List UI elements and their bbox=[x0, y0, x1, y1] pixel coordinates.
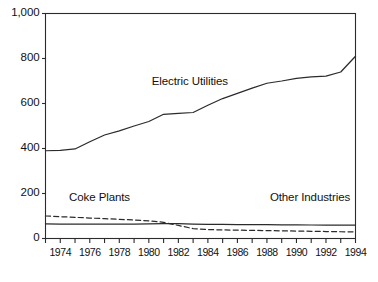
series-annotation-electric-utilities: Electric Utilities bbox=[152, 75, 228, 87]
y-axis-tick-label: 600 bbox=[21, 96, 40, 108]
y-axis-tick-label: 1,000 bbox=[11, 6, 39, 18]
series-line-electric-utilities bbox=[46, 56, 356, 151]
series-annotation-coke-plants: Coke Plants bbox=[69, 191, 130, 203]
y-axis-tick-label: 400 bbox=[21, 141, 40, 153]
line-chart bbox=[0, 0, 378, 282]
series-annotation-other-industries: Other Industries bbox=[270, 191, 350, 203]
x-axis-tick-label: 1994 bbox=[336, 246, 376, 258]
chart-container: 02004006008001,0001974197619781980198219… bbox=[0, 0, 378, 282]
plot-frame bbox=[46, 14, 356, 239]
series-line-other-industries bbox=[46, 224, 356, 225]
y-axis-tick-label: 800 bbox=[21, 51, 40, 63]
x-axis-ticks bbox=[46, 239, 356, 244]
y-axis-tick-label: 0 bbox=[33, 231, 39, 243]
y-axis-tick-label: 200 bbox=[21, 186, 40, 198]
